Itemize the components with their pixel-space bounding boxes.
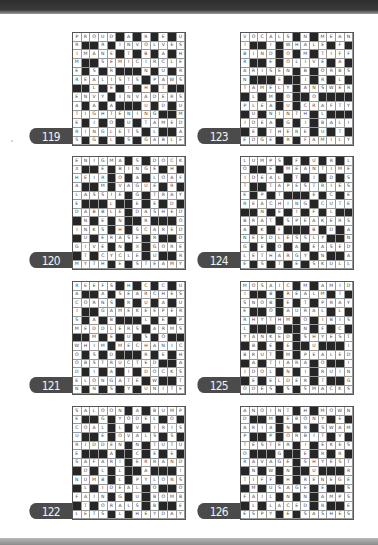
letter-cell: N — [142, 111, 151, 120]
letter-cell: E — [116, 261, 125, 270]
black-cell — [177, 200, 186, 209]
letter-cell: R — [284, 252, 293, 261]
letter-cell: E — [168, 226, 177, 235]
letter-cell: D — [250, 386, 259, 395]
black-cell — [125, 351, 134, 360]
letter-cell: E — [73, 377, 82, 386]
letter-cell: A — [241, 407, 250, 416]
black-cell — [151, 299, 160, 308]
letter-cell: E — [319, 485, 328, 494]
black-cell — [276, 137, 285, 146]
letter-cell: E — [133, 235, 142, 244]
letter-cell: E — [250, 442, 259, 451]
letter-cell: E — [82, 174, 91, 183]
letter-cell: A — [267, 282, 276, 291]
letter-cell: D — [82, 467, 91, 476]
letter-cell: E — [258, 174, 267, 183]
black-cell — [258, 433, 267, 442]
black-cell — [327, 377, 336, 386]
letter-cell: R — [159, 226, 168, 235]
letter-cell: N — [284, 424, 293, 433]
letter-cell: N — [159, 342, 168, 351]
letter-cell: K — [327, 442, 336, 451]
crossword-grid: VOCALSNMEANIIWHALEFBINDOMTIFFREOLIVEAARI… — [240, 32, 354, 146]
black-cell — [151, 217, 160, 226]
letter-cell: I — [241, 174, 250, 183]
black-cell — [327, 342, 336, 351]
black-cell — [168, 217, 177, 226]
letter-cell: D — [90, 442, 99, 451]
letter-cell: N — [310, 166, 319, 175]
letter-cell: N — [284, 493, 293, 502]
letter-cell: N — [250, 467, 259, 476]
black-cell — [125, 442, 134, 451]
letter-cell: S — [301, 235, 310, 244]
black-cell — [345, 416, 354, 425]
letter-cell: O — [301, 317, 310, 326]
black-cell — [345, 76, 354, 85]
letter-cell: E — [99, 217, 108, 226]
black-cell — [327, 360, 336, 369]
letter-cell: Y — [108, 252, 117, 261]
black-cell — [142, 377, 151, 386]
black-cell — [310, 407, 319, 416]
letter-cell: R — [159, 325, 168, 334]
letter-cell: A — [301, 166, 310, 175]
letter-cell: R — [345, 85, 354, 94]
black-cell — [284, 174, 293, 183]
letter-cell: L — [250, 93, 259, 102]
black-cell — [276, 217, 285, 226]
letter-cell: M — [116, 308, 125, 317]
black-cell — [258, 291, 267, 300]
black-cell — [125, 476, 134, 485]
black-cell — [327, 325, 336, 334]
black-cell — [151, 68, 160, 77]
black-cell — [168, 128, 177, 137]
letter-cell: A — [142, 93, 151, 102]
black-cell — [310, 442, 319, 451]
black-cell — [125, 174, 134, 183]
black-cell — [250, 261, 259, 270]
letter-cell: I — [168, 424, 177, 433]
letter-cell: A — [284, 360, 293, 369]
letter-cell: E — [319, 42, 328, 51]
letter-cell: U — [250, 157, 259, 166]
letter-cell: E — [108, 442, 117, 451]
black-cell — [90, 467, 99, 476]
letter-cell: E — [293, 261, 302, 270]
letter-cell: X — [73, 166, 82, 175]
letter-cell: O — [241, 166, 250, 175]
letter-cell: R — [319, 368, 328, 377]
black-cell — [327, 42, 336, 51]
letter-cell: N — [73, 476, 82, 485]
letter-cell: A — [345, 252, 354, 261]
letter-cell: N — [82, 157, 91, 166]
letter-cell: N — [116, 243, 125, 252]
black-cell — [293, 317, 302, 326]
black-cell — [301, 209, 310, 218]
letter-cell: L — [250, 502, 259, 511]
letter-cell: S — [345, 493, 354, 502]
letter-cell: F — [276, 226, 285, 235]
letter-cell: E — [177, 243, 186, 252]
letter-cell: Y — [116, 416, 125, 425]
black-cell — [250, 308, 259, 317]
black-cell — [168, 334, 177, 343]
black-cell — [327, 128, 336, 137]
letter-cell: F — [319, 325, 328, 334]
letter-cell: T — [241, 476, 250, 485]
letter-cell: T — [241, 183, 250, 192]
letter-cell: D — [168, 200, 177, 209]
black-cell — [293, 119, 302, 128]
letter-cell: I — [258, 424, 267, 433]
letter-cell: O — [177, 485, 186, 494]
letter-cell: I — [310, 433, 319, 442]
letter-cell: Y — [82, 261, 91, 270]
letter-cell: M — [159, 119, 168, 128]
letter-cell: E — [327, 217, 336, 226]
letter-cell: W — [336, 407, 345, 416]
letter-cell: N — [267, 111, 276, 120]
letter-cell: E — [241, 511, 250, 520]
letter-cell: L — [108, 137, 117, 146]
letter-cell: T — [241, 85, 250, 94]
